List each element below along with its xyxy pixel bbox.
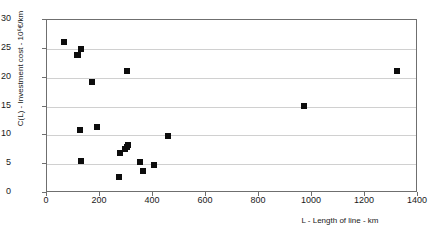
x-tick-mark bbox=[364, 192, 365, 196]
x-tick-label: 400 bbox=[132, 195, 172, 205]
gridline-horizontal bbox=[47, 107, 416, 108]
x-tick-mark bbox=[258, 192, 259, 196]
data-point bbox=[165, 133, 171, 139]
y-tick-label: 0 bbox=[0, 187, 11, 196]
chart-title bbox=[0, 0, 434, 4]
gridline-horizontal bbox=[47, 135, 416, 136]
x-tick-mark bbox=[205, 192, 206, 196]
y-tick-label: 25 bbox=[0, 43, 11, 52]
x-tick-mark bbox=[311, 192, 312, 196]
x-tick-mark bbox=[99, 192, 100, 196]
x-tick-mark bbox=[152, 192, 153, 196]
data-point bbox=[394, 68, 400, 74]
data-point bbox=[151, 162, 157, 168]
gridline-horizontal bbox=[47, 49, 416, 50]
data-point bbox=[116, 174, 122, 180]
x-tick-mark bbox=[417, 192, 418, 196]
y-tick-label: 15 bbox=[0, 101, 11, 110]
gridline-horizontal bbox=[47, 164, 416, 165]
x-tick-mark bbox=[46, 192, 47, 196]
data-point bbox=[78, 46, 84, 52]
x-tick-label: 1400 bbox=[397, 195, 434, 205]
x-tick-label: 800 bbox=[238, 195, 278, 205]
data-point bbox=[117, 150, 123, 156]
x-tick-label: 1000 bbox=[291, 195, 331, 205]
y-tick-label: 20 bbox=[0, 72, 11, 81]
y-tick-label: 30 bbox=[0, 14, 11, 23]
data-point bbox=[94, 124, 100, 130]
y-axis-label: C(L) - Investment cost - 10⁶€/km bbox=[16, 0, 25, 159]
x-axis-label: L - Length of line - km bbox=[250, 216, 430, 225]
data-point bbox=[140, 168, 146, 174]
data-point bbox=[301, 103, 307, 109]
y-tick-label: 10 bbox=[0, 129, 11, 138]
data-point bbox=[78, 158, 84, 164]
data-point bbox=[61, 39, 67, 45]
data-point bbox=[89, 79, 95, 85]
x-tick-label: 0 bbox=[26, 195, 66, 205]
data-point bbox=[124, 68, 130, 74]
scatter-chart-figure: 051015202530 0200400600800100012001400 C… bbox=[0, 0, 434, 238]
data-point bbox=[77, 127, 83, 133]
x-tick-label: 600 bbox=[185, 195, 225, 205]
data-point bbox=[75, 52, 81, 58]
y-tick-label: 5 bbox=[0, 158, 11, 167]
gridline-horizontal bbox=[47, 78, 416, 79]
plot-area bbox=[46, 19, 417, 192]
x-tick-label: 1200 bbox=[344, 195, 384, 205]
x-tick-label: 200 bbox=[79, 195, 119, 205]
data-point bbox=[137, 159, 143, 165]
